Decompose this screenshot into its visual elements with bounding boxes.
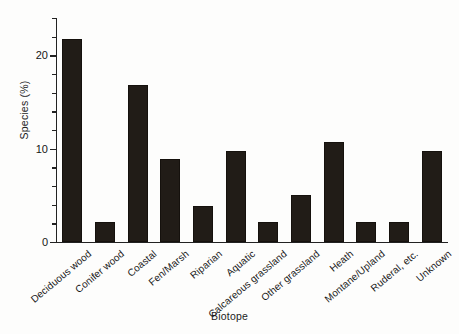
bar	[422, 151, 442, 242]
x-tick-label: Riparian	[188, 248, 224, 281]
bar	[324, 142, 344, 242]
bar	[389, 222, 409, 242]
x-tick-label: Unknown	[414, 248, 454, 284]
y-tick-label: 0	[42, 236, 48, 248]
y-tick-label: 10	[36, 143, 48, 155]
bar	[226, 151, 246, 242]
y-tick-label: 20	[36, 49, 48, 61]
bar-series	[56, 18, 448, 242]
x-axis-tick-labels: Deciduous woodConifer woodCoastalFen/Mar…	[56, 244, 448, 314]
plot-area: 01020	[56, 18, 448, 242]
bar	[128, 85, 148, 242]
bar	[258, 222, 278, 242]
bar	[160, 159, 180, 242]
bar	[62, 39, 82, 242]
bar	[193, 206, 213, 242]
x-tick-label: Other grassland	[259, 248, 322, 303]
bar	[356, 222, 376, 242]
x-tick-label: Heath	[327, 248, 355, 274]
bar	[291, 195, 311, 242]
y-axis-title: Species (%)	[18, 55, 30, 165]
x-axis-title: Biotope	[0, 310, 459, 322]
bar-chart: Species (%) 01020 Deciduous woodConifer …	[0, 0, 459, 334]
bar	[95, 222, 115, 242]
